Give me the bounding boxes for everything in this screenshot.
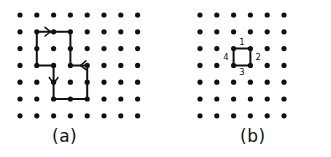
lattice-dot — [281, 46, 286, 51]
lattice-dot — [85, 46, 90, 51]
lattice-dot — [135, 113, 140, 118]
lattice-dot — [281, 12, 286, 17]
lattice-dot — [17, 12, 22, 17]
lattice-dot — [85, 12, 90, 17]
unit-square-outline — [234, 49, 251, 66]
lattice-dot — [265, 113, 270, 118]
lattice-dot — [101, 29, 106, 34]
lattice-dot — [17, 80, 22, 85]
lattice-dot — [118, 96, 123, 101]
edge-label-3: 3 — [239, 67, 244, 77]
lattice-dot — [197, 29, 202, 34]
lattice-dot — [197, 96, 202, 101]
lattice-dot — [265, 46, 270, 51]
lattice-dot — [101, 113, 106, 118]
lattice-dot — [17, 96, 22, 101]
panel-b-caption: (b) — [240, 128, 266, 145]
lattice-dot — [248, 12, 253, 17]
panel-b: 1 2 3 4 — [197, 12, 286, 118]
lattice-dot — [281, 113, 286, 118]
lattice-dot — [197, 63, 202, 68]
lattice-dot — [197, 46, 202, 51]
lattice-dot — [118, 29, 123, 34]
edge-label-2: 2 — [256, 52, 261, 62]
lattice-dot — [135, 80, 140, 85]
lattice-dot — [214, 46, 219, 51]
lattice-dot — [118, 12, 123, 17]
lattice-dot — [265, 96, 270, 101]
lattice-dot — [51, 12, 56, 17]
lattice-dot — [135, 96, 140, 101]
lattice-dot — [17, 63, 22, 68]
lattice-dot — [231, 113, 236, 118]
lattice-dot — [197, 80, 202, 85]
lattice-dot — [101, 12, 106, 17]
lattice-dot — [231, 29, 236, 34]
lattice-dot — [231, 96, 236, 101]
lattice-dot — [34, 113, 39, 118]
lattice-dot — [248, 96, 253, 101]
lattice-dot — [281, 63, 286, 68]
lattice-dot — [197, 113, 202, 118]
lattice-dot — [231, 80, 236, 85]
lattice-dot — [101, 63, 106, 68]
lattice-dot — [85, 113, 90, 118]
lattice-dot — [17, 46, 22, 51]
panel-a — [17, 12, 140, 118]
lattice-dot — [51, 46, 56, 51]
lattice-dot — [17, 113, 22, 118]
lattice-dot — [68, 80, 73, 85]
lattice-dot — [214, 63, 219, 68]
figure-root: 1 2 3 4 (a) (b) — [0, 0, 331, 157]
panel-a-caption: (a) — [52, 128, 77, 145]
lattice-dot — [34, 96, 39, 101]
lattice-dot — [135, 46, 140, 51]
panel-captions: (a) (b) — [0, 122, 331, 157]
panel-a-direction-arrows — [45, 27, 86, 83]
edge-label-4: 4 — [223, 52, 228, 62]
lattice-dot — [214, 113, 219, 118]
lattice-dot — [34, 12, 39, 17]
lattice-dot — [101, 96, 106, 101]
lattice-dot — [281, 80, 286, 85]
lattice-dot — [214, 29, 219, 34]
lattice-dot — [17, 29, 22, 34]
lattice-dot — [214, 96, 219, 101]
edge-label-1: 1 — [239, 37, 244, 47]
lattice-dot — [248, 29, 253, 34]
lattice-dot — [214, 80, 219, 85]
lattice-dot — [51, 113, 56, 118]
lattice-dot — [85, 29, 90, 34]
lattice-dot — [265, 80, 270, 85]
lattice-dot — [135, 12, 140, 17]
lattice-dot — [197, 12, 202, 17]
lattice-dot — [68, 113, 73, 118]
lattice-dot — [248, 113, 253, 118]
lattice-dot — [135, 29, 140, 34]
lattice-dot — [281, 96, 286, 101]
lattice-dot — [118, 113, 123, 118]
lattice-dot — [281, 29, 286, 34]
lattice-dot — [214, 12, 219, 17]
lattice-dot — [265, 63, 270, 68]
lattice-dot — [231, 12, 236, 17]
lattice-dot — [101, 80, 106, 85]
lattice-dot — [248, 80, 253, 85]
panel-b-edge-labels: 1 2 3 4 — [223, 37, 261, 77]
lattice-dot — [265, 29, 270, 34]
lattice-dot — [68, 12, 73, 17]
lattice-dot — [101, 46, 106, 51]
lattice-dot — [34, 80, 39, 85]
lattice-dot — [118, 63, 123, 68]
lattice-dot — [118, 80, 123, 85]
lattice-dot — [265, 12, 270, 17]
lattice-dot — [118, 46, 123, 51]
lattice-dot — [135, 63, 140, 68]
